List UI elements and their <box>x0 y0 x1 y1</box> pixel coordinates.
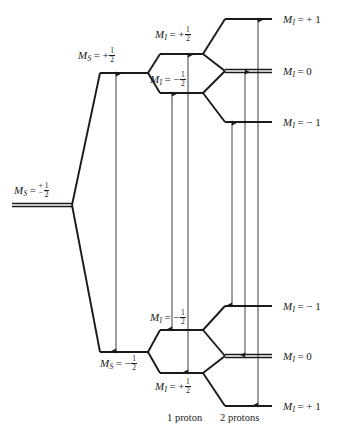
label-ms-up-mi-minus-half: MI=−12 <box>150 71 186 88</box>
connector-tp-a2 <box>203 54 225 71</box>
label-tp-top-0: MI=0 <box>283 66 312 79</box>
label-ms-minus-half: MS=−12 <box>100 355 137 372</box>
connector-origin-to-ms-up <box>72 73 100 205</box>
label-ms-plus-half: MS=+12 <box>78 47 115 64</box>
connector-tp-c1 <box>203 306 225 330</box>
connector-tp-b2 <box>203 93 225 122</box>
label-tp-top-plus-1: MI=+ 1 <box>283 14 321 27</box>
transition-arrows <box>116 20 258 405</box>
connector-tp-d2 <box>203 373 225 406</box>
label-ms-up-mi-plus-half: MI=+12 <box>155 26 191 43</box>
connector-tp-d1 <box>203 356 225 373</box>
energy-level-diagram: MS=+−12MS=+12MS=−12MI=+12MI=−12MI=−12MI=… <box>0 0 344 436</box>
connector-msdown-to-mi-plus <box>148 352 160 373</box>
label-ms-down-mi-minus-half: MI=−12 <box>150 309 186 326</box>
label-tp-bot-minus-1: MI=− 1 <box>283 301 321 314</box>
label-tp-top-minus-1: MI=− 1 <box>283 117 321 130</box>
energy-level-lines <box>12 19 272 406</box>
label-tp-bot-plus-1: MI=+ 1 <box>283 401 321 414</box>
connector-origin-to-ms-down <box>72 205 100 352</box>
caption-one-proton: 1 proton <box>167 412 202 423</box>
connector-msdown-to-mi-minus <box>148 330 160 352</box>
connector-tp-c2 <box>203 330 225 356</box>
label-ms-degenerate: MS=+−12 <box>14 182 50 199</box>
connector-tp-b1 <box>203 71 225 93</box>
connector-lines <box>72 19 225 406</box>
connector-tp-a1 <box>203 19 225 54</box>
caption-two-protons: 2 protons <box>220 412 259 423</box>
label-ms-down-mi-plus-half: MI=+12 <box>155 378 191 395</box>
label-tp-bot-0: MI=0 <box>283 351 312 364</box>
